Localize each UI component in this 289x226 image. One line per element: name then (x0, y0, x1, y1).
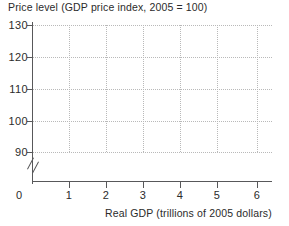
y-axis-tick-label-100: 100 (8, 115, 28, 127)
gridline-vertical-1 (69, 25, 70, 152)
x-axis-tick-2 (106, 182, 107, 188)
x-axis-tick-label-5: 5 (207, 189, 227, 201)
gridline-vertical-4 (180, 25, 181, 152)
x-axis-title: Real GDP (trillions of 2005 dollars) (105, 207, 272, 219)
plot-area (33, 25, 272, 182)
x-axis-tick-label-6: 6 (247, 189, 267, 201)
x-axis-tick-5 (217, 182, 218, 188)
gridline-vertical-5 (217, 25, 218, 152)
x-axis-tick-label-1: 1 (59, 189, 79, 201)
axis-break-icon (25, 157, 41, 177)
x-axis-tick-6 (257, 182, 258, 188)
x-axis-tick-4 (180, 182, 181, 188)
y-axis-tick-label-120: 120 (8, 51, 28, 63)
x-axis-tick-1 (69, 182, 70, 188)
y-axis-tick-label-130: 130 (8, 19, 28, 31)
chart-container: Price level (GDP price index, 2005 = 100… (0, 0, 289, 226)
gridline-horizontal-90 (33, 152, 272, 153)
x-axis-tick-label-2: 2 (96, 189, 116, 201)
gridline-vertical-6 (257, 25, 258, 152)
gridline-vertical-2 (106, 25, 107, 152)
gridline-vertical-3 (143, 25, 144, 152)
x-axis-line (32, 181, 272, 182)
y-axis-tick-label-110: 110 (9, 83, 28, 95)
y-axis-title: Price level (GDP price index, 2005 = 100… (8, 1, 207, 13)
x-axis-tick-label-3: 3 (133, 189, 153, 201)
x-axis-tick-3 (143, 182, 144, 188)
x-axis-tick-label-4: 4 (170, 189, 190, 201)
x-axis-tick-label-0: 0 (16, 189, 22, 201)
